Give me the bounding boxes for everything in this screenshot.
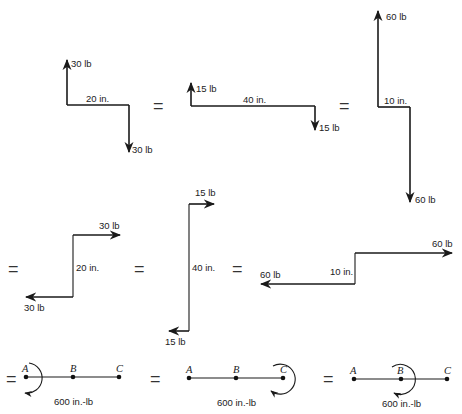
force-label-bottom: 15 lb — [319, 122, 340, 133]
point-a — [24, 375, 29, 380]
arm-label: 40 in. — [192, 262, 215, 273]
arm-label: 20 in. — [76, 262, 99, 273]
row2-couple3: 60 lb 10 in. 60 lb — [260, 238, 453, 284]
row3-beam1: A B C 600 in.-lb — [21, 363, 124, 407]
point-label-b: B — [233, 364, 240, 375]
equals-sign: = — [153, 96, 164, 116]
force-label-bottom: 60 lb — [415, 194, 436, 205]
row3-beam3: A B C 600 in.-lb — [349, 364, 452, 409]
point-b — [399, 377, 404, 382]
moment-label: 600 in.-lb — [54, 396, 93, 407]
moment-label: 600 in.-lb — [217, 397, 256, 408]
force-label-top: 60 lb — [386, 11, 407, 22]
force-label-bottom: 30 lb — [24, 302, 45, 313]
row1-couple3: 60 lb 10 in. 60 lb — [378, 11, 436, 205]
force-label-bottom: 15 lb — [165, 336, 186, 347]
equals-sign: = — [339, 96, 350, 116]
point-label-b: B — [70, 363, 77, 374]
equals-sign: = — [6, 369, 17, 389]
force-label-top: 15 lb — [195, 187, 216, 198]
point-label-a: A — [185, 364, 193, 375]
point-c — [445, 377, 450, 382]
point-a — [187, 376, 192, 381]
point-c — [281, 376, 286, 381]
row1-couple2: 15 lb 40 in. 15 lb — [191, 83, 340, 133]
force-label-top: 15 lb — [196, 83, 217, 94]
equals-sign: = — [323, 369, 334, 389]
equals-sign: = — [134, 259, 145, 279]
force-label-top: 60 lb — [432, 238, 453, 249]
point-label-c: C — [444, 365, 452, 376]
point-a — [352, 377, 357, 382]
equals-sign: = — [150, 369, 161, 389]
point-label-a: A — [349, 365, 357, 376]
row1-couple1: 30 lb 20 in. 30 lb — [67, 58, 153, 155]
row3-beam2: A B C 600 in.-lb — [185, 364, 295, 408]
point-b — [71, 375, 76, 380]
force-label-bottom: 60 lb — [260, 269, 281, 280]
equals-sign: = — [232, 259, 243, 279]
arm-label: 40 in. — [243, 94, 266, 105]
point-c — [117, 375, 122, 380]
point-label-b: B — [397, 365, 404, 376]
force-label-top: 30 lb — [71, 58, 92, 69]
arm-label: 10 in. — [330, 266, 353, 277]
couple-equivalence-diagram: 30 lb 20 in. 30 lb = 15 lb 40 in. 15 lb … — [0, 0, 462, 414]
point-label-a: A — [21, 363, 29, 374]
row2-couple1: 30 lb 20 in. 30 lb — [24, 220, 120, 313]
point-label-c: C — [116, 363, 124, 374]
equals-sign: = — [8, 259, 19, 279]
row2-couple2: 15 lb 40 in. 15 lb — [165, 187, 216, 347]
force-label-top: 30 lb — [99, 220, 120, 231]
point-b — [234, 376, 239, 381]
arm-label: 10 in. — [384, 95, 407, 106]
arm-label: 20 in. — [86, 93, 109, 104]
moment-label: 600 in.-lb — [382, 398, 421, 409]
force-label-bottom: 30 lb — [132, 144, 153, 155]
